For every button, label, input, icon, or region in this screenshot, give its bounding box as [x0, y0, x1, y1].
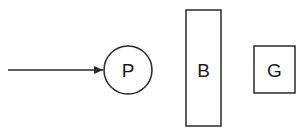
barrier-rect-b-label: B — [197, 60, 210, 81]
diagram-canvas: P B G — [0, 0, 307, 136]
target-square-g-label: G — [267, 60, 282, 81]
diagram-svg: P B G — [0, 0, 307, 136]
particle-circle-p-label: P — [122, 60, 135, 81]
arrow-head-icon — [94, 66, 103, 74]
